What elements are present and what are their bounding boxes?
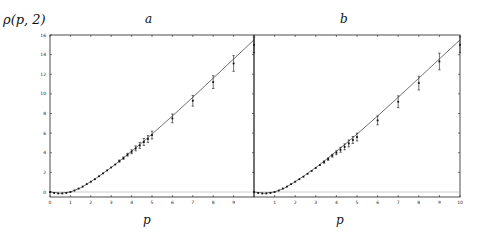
data-point <box>212 81 214 83</box>
data-point <box>418 82 420 84</box>
data-point <box>131 151 133 153</box>
data-point <box>336 152 338 154</box>
data-point <box>290 183 292 185</box>
data-point <box>356 136 358 138</box>
data-point <box>348 143 350 145</box>
plot-frame <box>254 35 460 197</box>
data-point <box>315 167 317 169</box>
data-point <box>261 193 263 195</box>
data-point <box>74 190 76 192</box>
y-tick-label: 8 <box>43 111 46 116</box>
y-tick-label: 10 <box>40 91 46 96</box>
data-point <box>459 44 461 46</box>
x-tick-label: 9 <box>232 200 235 205</box>
data-point <box>78 188 80 190</box>
y-tick-label: 6 <box>43 131 46 136</box>
data-point <box>82 186 84 188</box>
panel-a-plot-area: 01234567890246810121416 <box>40 33 255 206</box>
x-tick-label: 8 <box>212 200 215 205</box>
x-tick-label: 8 <box>417 200 420 205</box>
x-tick-label: 9 <box>438 200 441 205</box>
x-tick-label: 2 <box>294 200 297 205</box>
data-point <box>106 170 108 172</box>
plot-frame <box>50 35 254 197</box>
figure: ρ(p, 2) a p 01234567890246810121416 b p … <box>0 0 483 238</box>
data-point <box>377 119 379 121</box>
data-point <box>233 63 235 65</box>
data-point <box>110 167 112 169</box>
data-point <box>294 181 296 183</box>
x-tick-label: 2 <box>89 200 92 205</box>
data-point <box>90 181 92 183</box>
panel-b-x-label: p <box>336 213 344 227</box>
data-point <box>94 178 96 180</box>
panel-a-x-label: p <box>143 213 151 227</box>
data-point <box>57 193 59 195</box>
x-tick-label: 0 <box>49 200 52 205</box>
data-point <box>397 101 399 103</box>
y-tick-label: 16 <box>40 33 46 38</box>
x-tick-label: 5 <box>356 200 359 205</box>
panel-b-plot-area: 12345678910 <box>253 35 463 205</box>
x-tick-label: 1 <box>273 200 276 205</box>
data-point <box>327 158 329 160</box>
data-point <box>123 157 125 159</box>
x-tick-label: 3 <box>110 200 113 205</box>
data-point <box>311 170 313 172</box>
data-point <box>270 192 272 194</box>
panel-b-title: b <box>340 12 348 26</box>
y-axis-label: ρ(p, 2) <box>2 12 46 27</box>
data-point <box>192 100 194 102</box>
fit-curve <box>254 40 460 193</box>
x-tick-label: 4 <box>335 200 338 205</box>
x-tick-label: 6 <box>376 200 379 205</box>
panel-a: a p 01234567890246810121416 <box>40 12 255 227</box>
panel-a-title: a <box>145 12 152 26</box>
fit-curve <box>50 40 254 193</box>
data-point <box>439 61 441 63</box>
data-point <box>352 139 354 141</box>
x-tick-label: 10 <box>457 200 463 205</box>
data-point <box>118 160 120 162</box>
x-tick-label: 4 <box>130 200 133 205</box>
data-point <box>307 173 309 175</box>
x-tick-label: 7 <box>191 200 194 205</box>
data-point <box>61 193 63 195</box>
data-point <box>65 192 67 194</box>
data-point <box>319 164 321 166</box>
data-point <box>274 191 276 193</box>
y-tick-label: 0 <box>43 190 46 195</box>
data-point <box>143 141 145 143</box>
data-point <box>323 161 325 163</box>
data-point <box>49 191 51 193</box>
data-point <box>151 134 153 136</box>
data-point <box>114 164 116 166</box>
data-point <box>253 191 255 193</box>
y-tick-label: 12 <box>40 72 46 77</box>
data-point <box>265 193 267 195</box>
data-point <box>257 192 259 194</box>
data-point <box>102 172 104 174</box>
data-point <box>139 144 141 146</box>
data-point <box>298 178 300 180</box>
data-point <box>278 190 280 192</box>
data-point <box>282 188 284 190</box>
x-tick-label: 6 <box>171 200 174 205</box>
y-tick-label: 2 <box>43 170 46 175</box>
y-tick-label: 4 <box>43 150 46 155</box>
data-point <box>172 118 174 120</box>
x-tick-label: 5 <box>151 200 154 205</box>
data-point <box>86 183 88 185</box>
data-point <box>127 154 129 156</box>
data-point <box>303 176 305 178</box>
data-point <box>135 147 137 149</box>
x-tick-label: 7 <box>397 200 400 205</box>
x-tick-label: 1 <box>69 200 72 205</box>
data-point <box>147 138 149 140</box>
data-point <box>98 175 100 177</box>
data-point <box>344 146 346 148</box>
panel-b: b p 12345678910 <box>253 12 463 227</box>
x-tick-label: 3 <box>314 200 317 205</box>
data-point <box>53 192 55 194</box>
data-point <box>70 191 72 193</box>
